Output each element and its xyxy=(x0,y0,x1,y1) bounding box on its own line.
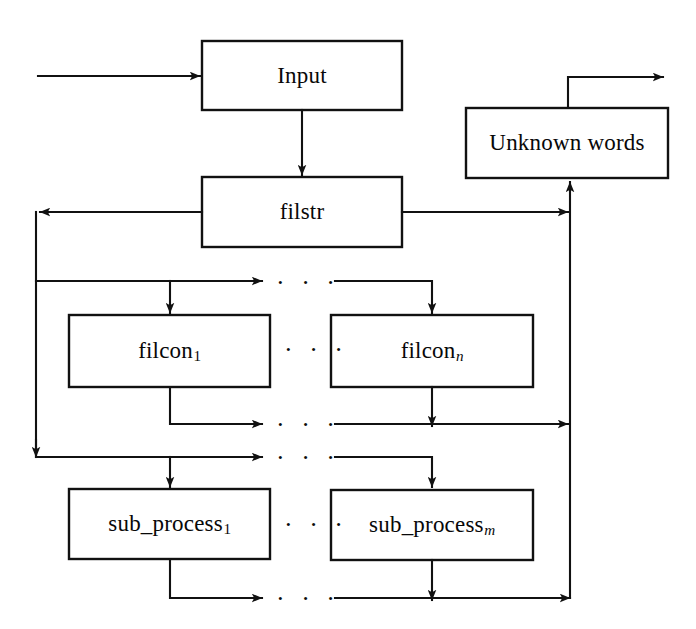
bus-subprocess-input-right xyxy=(335,457,432,487)
bus-filcon-input-right xyxy=(335,281,432,313)
box-filstr[interactable] xyxy=(202,177,402,247)
box-sub-process-m[interactable] xyxy=(331,490,533,560)
box-sub-process-1[interactable] xyxy=(69,489,270,559)
box-unknown-words[interactable] xyxy=(466,108,668,178)
edge-filcon1-to-filcon-out-bus xyxy=(170,387,262,424)
box-filcon-1[interactable] xyxy=(69,315,270,387)
edge-subprocess1-to-sub-out-bus xyxy=(170,559,262,598)
box-input[interactable] xyxy=(202,41,402,110)
diagram-canvas: Input Unknown words filstr filcon1 filco… xyxy=(0,0,696,629)
edge-unknown-words-to-external-out xyxy=(568,77,663,108)
diagram-wiring xyxy=(0,0,696,629)
box-filcon-n[interactable] xyxy=(331,315,533,387)
